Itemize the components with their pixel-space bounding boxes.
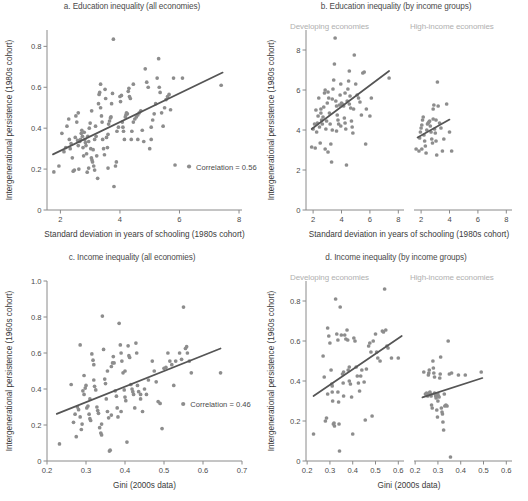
b-right-data-point	[436, 80, 440, 84]
d-right-data-point	[437, 395, 441, 399]
b-left-data-point	[354, 82, 358, 86]
d-left-data-point	[342, 394, 346, 398]
b-left-data-point	[328, 122, 332, 126]
a-data-point	[74, 114, 78, 118]
figure-container: a. Education inequality (all economies) …	[0, 0, 528, 501]
c-data-point	[106, 369, 110, 373]
a-y-tick-label: 0.6	[31, 83, 42, 92]
a-data-point	[73, 136, 77, 140]
a-data-point	[87, 166, 91, 170]
c-data-point	[78, 415, 82, 419]
c-x-axis-title: Gini (2000s data)	[113, 481, 176, 490]
b-left-data-point	[357, 96, 361, 100]
d-left-data-point	[371, 339, 375, 343]
a-data-point	[142, 140, 146, 144]
a-data-point	[95, 154, 99, 158]
a-data-point	[82, 130, 86, 134]
c-data-point	[139, 397, 143, 401]
d-left-x-tick-label: 0.3	[325, 466, 336, 475]
a-data-point	[115, 160, 119, 164]
b-left-data-point	[348, 94, 352, 98]
b-left-data-point	[335, 129, 339, 133]
panel-c-income-all: c. Income inequality (all economies) 0.2…	[0, 251, 264, 501]
b-left-x-tick-label: 6	[368, 215, 372, 224]
c-data-point	[77, 408, 81, 412]
b-left-data-point	[339, 124, 343, 128]
b-left-data-point	[339, 82, 343, 86]
d-left-x-tick-label: 0.2	[302, 466, 313, 475]
c-data-point	[91, 358, 95, 362]
d-right-x-tick-label: 0.2	[410, 466, 421, 475]
c-data-point	[108, 448, 112, 452]
d-right-data-point	[463, 373, 467, 377]
d-left-data-point	[338, 305, 342, 309]
d-left-data-point	[359, 374, 363, 378]
d-right-data-point	[439, 355, 443, 359]
d-left-data-point	[326, 326, 330, 330]
c-data-point	[74, 435, 78, 439]
b-left-data-point	[315, 130, 319, 134]
b-x-axis-title: Standard deviation in years of schooling…	[309, 230, 510, 239]
b-left-data-point	[319, 111, 323, 115]
a-data-point	[129, 97, 133, 101]
a-data-point	[112, 185, 116, 189]
c-data-point	[102, 348, 106, 352]
d-x-axis-title: Gini (2000s data)	[378, 481, 441, 490]
panel-d-plot: 0.20.30.40.50.600.20.40.60.80.20.30.40.5…	[264, 251, 528, 501]
c-data-point	[164, 366, 168, 370]
b-left-data-point	[365, 107, 369, 111]
d-right-data-point	[446, 339, 450, 343]
b-left-data-point	[369, 96, 373, 100]
b-right-data-point	[436, 104, 440, 108]
c-data-point	[160, 427, 164, 431]
b-right-data-point	[428, 119, 432, 123]
d-left-data-point	[335, 332, 339, 336]
a-data-point	[75, 120, 79, 124]
c-data-point	[132, 393, 136, 397]
c-data-point	[118, 343, 122, 347]
c-data-point	[86, 404, 90, 408]
c-data-point	[139, 393, 143, 397]
c-data-point	[90, 352, 94, 356]
b-right-data-point	[433, 131, 437, 135]
b-left-data-point	[333, 36, 337, 40]
b-right-x-tick-label: 4	[447, 215, 451, 224]
d-right-data-point	[441, 420, 445, 424]
d-right-x-tick-label: 0.5	[478, 466, 489, 475]
d-right-x-tick-label: 0.3	[433, 466, 444, 475]
d-left-data-point	[378, 359, 382, 363]
b-left-y-tick-label: 6	[296, 86, 300, 95]
d-left-data-point	[322, 375, 326, 379]
b-left-data-point	[335, 113, 339, 117]
panel-a-education-all: a. Education inequality (all economies) …	[0, 0, 264, 250]
a-data-point	[123, 138, 127, 142]
b-right-data-point	[434, 118, 438, 122]
c-data-point	[58, 442, 62, 446]
c-data-point	[84, 384, 88, 388]
d-left-data-point	[358, 389, 362, 393]
a-data-point	[65, 124, 69, 128]
b-right-data-point	[421, 115, 425, 119]
b-right-x-tick-label: 6	[476, 215, 480, 224]
d-right-x-tick-label: 0.6	[501, 466, 512, 475]
b-left-y-tick-label: 0	[296, 206, 300, 215]
a-data-point	[93, 168, 97, 172]
c-data-point	[141, 410, 145, 414]
c-data-point	[150, 359, 154, 363]
a-data-point	[126, 90, 130, 94]
c-data-point	[100, 433, 104, 437]
a-data-point	[155, 76, 159, 80]
a-data-point	[114, 164, 118, 168]
b-y-axis-title: Intergenerational persistence (1980s coh…	[267, 39, 276, 200]
b-left-y-tick-label: 2	[296, 166, 300, 175]
c-data-point	[80, 422, 84, 426]
b-right-data-point	[435, 153, 439, 157]
c-data-point	[79, 428, 83, 432]
d-left-data-point	[349, 382, 353, 386]
b-right-data-point	[439, 126, 443, 130]
c-data-point	[186, 351, 190, 355]
b-right-data-point	[431, 107, 435, 111]
panel-c-plot: 0.20.30.40.50.60.700.20.40.60.81.0Interg…	[0, 251, 264, 501]
a-y-tick-label: 0.8	[31, 42, 42, 51]
c-x-tick-label: 0.3	[81, 466, 92, 475]
